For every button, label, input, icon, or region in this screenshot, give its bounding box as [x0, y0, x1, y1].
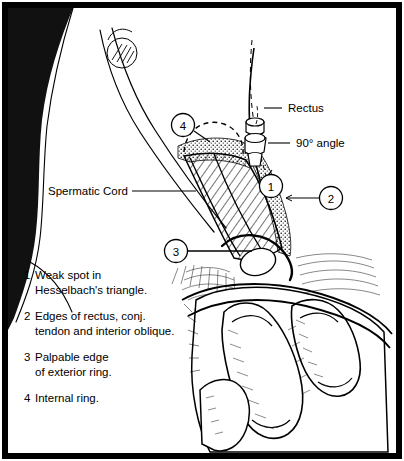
- marker-3-text: 3: [173, 246, 179, 258]
- marker-4-text: 4: [180, 120, 187, 132]
- legend-item-3-text: Palpable edge of exterior ring.: [35, 350, 112, 380]
- legend-item-1-number: 1: [24, 268, 35, 298]
- legend-list: 1 Weak spot in Hesselbach's triangle. 2 …: [24, 268, 239, 417]
- legend-item-2-text: Edges of rectus, conj. tendon and interi…: [35, 309, 174, 339]
- legend-item-3: 3 Palpable edge of exterior ring.: [24, 350, 239, 380]
- legend-item-4: 4 Internal ring.: [24, 391, 239, 406]
- legend-item-4-text: Internal ring.: [35, 391, 99, 406]
- legend-item-2: 2 Edges of rectus, conj. tendon and inte…: [24, 309, 239, 339]
- callout-90-angle-label: 90° angle: [296, 136, 345, 150]
- medical-illustration-figure: 4 1 2 3 Rectus 90° angle Spermatic Cord …: [0, 0, 404, 461]
- legend-item-4-number: 4: [24, 391, 35, 406]
- marker-2-text: 2: [328, 193, 334, 205]
- legend-item-3-number: 3: [24, 350, 35, 380]
- legend-item-1-text: Weak spot in Hesselbach's triangle.: [35, 268, 147, 298]
- legend-item-2-number: 2: [24, 309, 35, 339]
- legend-item-1: 1 Weak spot in Hesselbach's triangle.: [24, 268, 239, 298]
- callout-spermatic-cord-label: Spermatic Cord: [48, 184, 128, 198]
- callout-rectus-label: Rectus: [288, 101, 324, 115]
- marker-1-text: 1: [268, 181, 274, 193]
